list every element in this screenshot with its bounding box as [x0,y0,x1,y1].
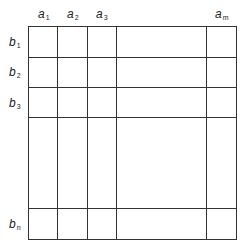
row-label-b1: b1 [9,36,21,49]
row-label-bn: bn [9,218,21,231]
col-label-a2: a2 [67,8,79,21]
row-label-b3: b3 [9,97,21,110]
col-label-a3: a3 [96,8,108,21]
col-label-a1: a1 [38,8,50,21]
grid-border [29,27,237,240]
row-label-b2: b2 [9,66,21,79]
col-label-am: am [215,8,229,21]
matrix-grid [0,0,248,251]
